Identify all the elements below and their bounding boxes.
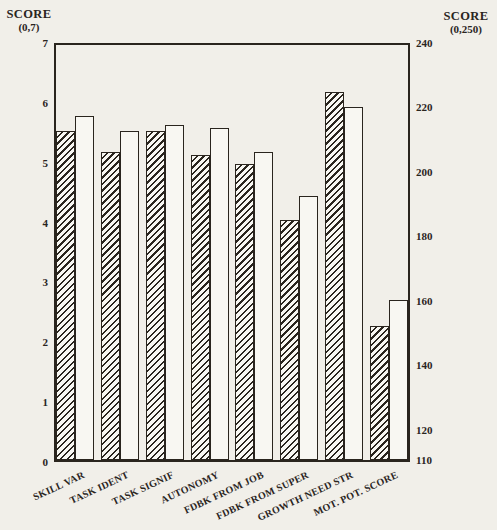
open-bar-mot-pot-score	[389, 300, 408, 460]
hatched-bar-autonomy	[191, 155, 210, 460]
left-axis-tick: 3	[28, 275, 48, 289]
bar-pair	[280, 196, 318, 460]
dual-axis-bar-chart-figure: SCORE (0,7) SCORE (0,250) 76543210 24022…	[0, 0, 497, 530]
bar-pair	[325, 92, 363, 460]
category-label: MOT. POT. SCORE	[312, 469, 400, 518]
hatched-bar-mot-pot-score	[370, 326, 389, 460]
right-axis-tick: 200	[416, 165, 446, 179]
open-bar-fdbk-from-job	[254, 152, 273, 460]
hatched-bar-skill-var	[56, 131, 75, 460]
right-axis-tick: 140	[416, 358, 446, 372]
hatched-bar-fdbk-from-super	[280, 220, 299, 460]
hatched-bar-growth-need-str	[325, 92, 344, 460]
bar-pair	[191, 128, 229, 460]
open-bar-task-signif	[165, 125, 184, 460]
open-bar-fdbk-from-super	[299, 196, 318, 460]
right-axis-bottom-tick: 110	[416, 453, 446, 467]
bar-pair	[370, 300, 408, 460]
right-axis-tick: 180	[416, 229, 446, 243]
hatched-bar-task-ident	[101, 152, 120, 460]
category-axis-labels: SKILL VARTASK IDENTTASK SIGNIFAUTONOMYFD…	[54, 462, 410, 530]
left-axis-title: SCORE (0,7)	[2, 8, 56, 34]
bar-pair	[56, 116, 94, 460]
right-axis-title-text: SCORE	[437, 10, 495, 23]
hatched-bar-task-signif	[146, 131, 165, 460]
plot-area	[54, 43, 410, 462]
left-axis-tick: 0	[28, 455, 48, 469]
open-bar-autonomy	[210, 128, 229, 460]
left-axis-tick: 7	[28, 36, 48, 50]
left-axis-tick: 1	[28, 395, 48, 409]
left-axis-tick: 5	[28, 156, 48, 170]
left-axis-range-label: (0,7)	[2, 21, 56, 34]
right-axis-tick: 160	[416, 294, 446, 308]
hatched-bar-fdbk-from-job	[235, 164, 254, 460]
open-bar-task-ident	[120, 131, 139, 460]
bar-pair	[235, 152, 273, 460]
right-axis-title: SCORE (0,250)	[437, 10, 495, 36]
right-axis-tick: 120	[416, 423, 446, 437]
left-axis-tick: 4	[28, 216, 48, 230]
open-bar-skill-var	[75, 116, 94, 460]
open-bar-growth-need-str	[344, 107, 363, 460]
bar-pair	[101, 131, 139, 460]
left-axis-tick: 2	[28, 335, 48, 349]
bar-pair	[146, 125, 184, 460]
left-axis-title-text: SCORE	[2, 8, 56, 21]
left-axis-tick: 6	[28, 96, 48, 110]
right-axis-tick: 240	[416, 36, 446, 50]
right-axis-tick: 220	[416, 100, 446, 114]
right-axis-range-label: (0,250)	[437, 23, 495, 36]
